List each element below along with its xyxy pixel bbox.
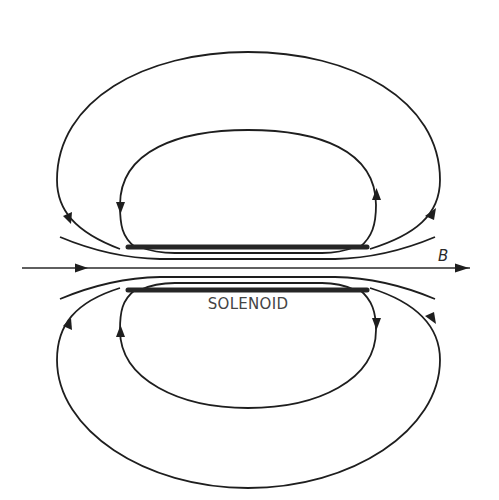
arrow-up-icon [372, 188, 381, 200]
central-axis [22, 264, 470, 273]
solenoid-field-diagram: SOLENOID B [0, 0, 499, 500]
arrow-down-icon [372, 318, 381, 330]
axis-arrow-left-icon [75, 264, 88, 273]
axis-arrow-right-icon [455, 264, 469, 273]
arrow-down-icon [116, 202, 125, 214]
upper-inner-loop [116, 130, 381, 247]
solenoid-label: SOLENOID [208, 295, 289, 313]
field-label-b: B [438, 247, 448, 265]
arrow-up-icon [116, 325, 125, 337]
lower-outer-loop [57, 288, 440, 488]
upper-outer-loop [57, 52, 440, 249]
